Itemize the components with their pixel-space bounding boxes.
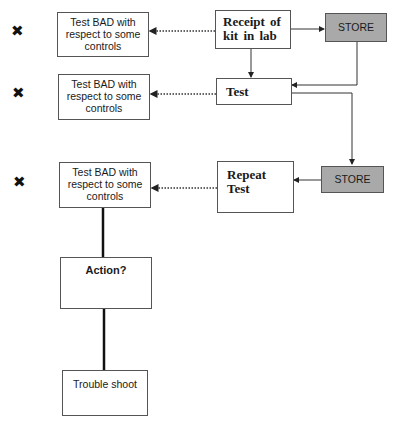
node-label: Repeat Test [227, 167, 266, 196]
node-label: Receipt of kit in lab [223, 14, 281, 43]
node-label: Test BAD with respect to some controls [66, 16, 141, 52]
node-label: Action? [86, 264, 127, 276]
node-label: STORE [335, 173, 371, 185]
cross-mark-icon: ✖ [12, 84, 25, 102]
node-label: Test BAD with respect to some controls [68, 166, 143, 202]
node-receipt-of-kit: Receipt of kit in lab [215, 10, 291, 49]
connector-lines [0, 0, 398, 427]
node-action: Action? [60, 257, 152, 309]
cross-mark-icon: ✖ [11, 22, 24, 40]
node-store-mid: STORE [321, 166, 384, 193]
node-label: Test [226, 84, 249, 99]
node-test-bad-3: Test BAD with respect to some controls [59, 162, 151, 208]
node-test: Test [216, 78, 292, 105]
node-store-top: STORE [325, 13, 387, 42]
node-test-bad-1: Test BAD with respect to some controls [57, 12, 149, 57]
node-label: Trouble shoot [73, 378, 137, 390]
node-trouble-shoot: Trouble shoot [62, 370, 148, 416]
node-test-bad-2: Test BAD with respect to some controls [58, 74, 150, 120]
node-repeat-test: Repeat Test [217, 161, 294, 213]
cross-mark-icon: ✖ [13, 173, 26, 191]
node-label: STORE [338, 21, 374, 33]
node-label: Test BAD with respect to some controls [67, 78, 142, 114]
